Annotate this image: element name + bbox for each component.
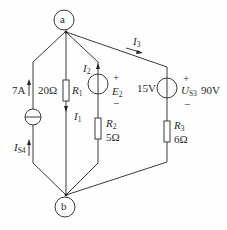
e2-minus: −	[113, 98, 119, 109]
current-source-name: IS4	[14, 142, 26, 155]
resistor-r1	[63, 80, 69, 101]
junction-b	[65, 194, 68, 197]
arrow-i2-icon	[96, 63, 100, 69]
us3-left-value: 15V	[137, 83, 156, 94]
junction-a	[65, 31, 68, 34]
voltage-source-us3	[157, 78, 177, 98]
node-b-label: b	[61, 201, 67, 212]
voltage-source-e2	[88, 74, 108, 94]
r3-value: 6Ω	[174, 134, 188, 145]
i2-label: I2	[83, 63, 90, 76]
r1-value: 20Ω	[38, 85, 57, 96]
r1-name: R1	[72, 85, 82, 98]
current-source-value: 7A	[12, 85, 25, 96]
r2-value: 5Ω	[106, 132, 120, 143]
wires	[33, 32, 167, 195]
us3-right-value: 90V	[201, 85, 220, 96]
r2-name: R2	[106, 118, 116, 131]
resistor-r2	[95, 118, 101, 139]
node-a-label: a	[60, 14, 65, 25]
circuit-schematic	[0, 0, 227, 230]
current-source-symbol	[25, 109, 41, 125]
resistor-r3	[164, 121, 170, 142]
r3-name: R3	[174, 120, 184, 133]
circuit-diagram: a b 7A IS4 20Ω R1 I1 I2 + E2 − R2 5Ω I3 …	[0, 0, 227, 230]
arrow-i1-icon	[64, 106, 68, 112]
i1-label: I1	[74, 111, 81, 124]
us3-minus: −	[184, 99, 190, 110]
e2-plus: +	[113, 72, 119, 83]
us3-plus: +	[183, 73, 189, 84]
us3-name: US3	[181, 85, 197, 98]
i3-label: I3	[133, 36, 140, 49]
